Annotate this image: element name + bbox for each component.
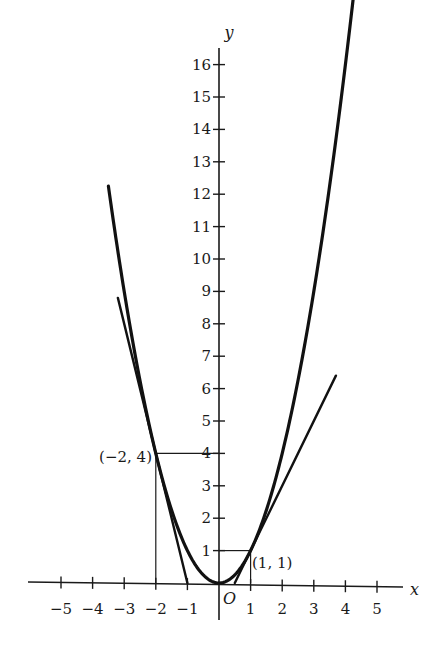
curves xyxy=(108,0,354,583)
x-axis-label: x xyxy=(410,580,419,599)
y-tick-label: 11 xyxy=(192,218,211,236)
x-tick-label: −2 xyxy=(145,600,167,618)
y-tick-label: 3 xyxy=(201,477,211,495)
origin-label: O xyxy=(223,589,236,608)
parabola-curve xyxy=(108,0,354,583)
tangent-line-left xyxy=(118,298,188,583)
point-label-1-1: (1, 1) xyxy=(252,554,292,572)
y-axis-label: y xyxy=(223,23,234,42)
x-tick-label: −1 xyxy=(176,600,198,618)
x-tick-label: −5 xyxy=(50,600,72,618)
y-tick-label: 10 xyxy=(192,250,211,268)
y-tick-label: 14 xyxy=(192,120,211,138)
x-tick-label: 3 xyxy=(309,600,319,618)
y-tick-label: 8 xyxy=(201,315,211,333)
parabola-tangent-chart: −5−4−3−2−11234512345678910111213141516yx… xyxy=(0,0,445,646)
x-tick-label: −4 xyxy=(82,600,104,618)
y-tick-label: 12 xyxy=(192,185,211,203)
point-label-neg2-4: (−2, 4) xyxy=(99,448,152,466)
y-tick-label: 16 xyxy=(192,56,211,74)
x-tick-label: −3 xyxy=(113,600,135,618)
y-tick-label: 9 xyxy=(201,282,211,300)
x-tick-label: 1 xyxy=(246,600,256,618)
x-tick-label: 5 xyxy=(372,600,382,618)
y-tick-label: 1 xyxy=(201,542,211,560)
y-tick-label: 2 xyxy=(201,509,211,527)
tangent-line-right xyxy=(235,376,336,583)
x-tick-label: 4 xyxy=(341,600,351,618)
y-tick-label: 15 xyxy=(192,88,211,106)
y-tick-label: 7 xyxy=(201,347,211,365)
y-tick-label: 4 xyxy=(201,444,211,462)
axes xyxy=(28,48,403,620)
x-tick-label: 2 xyxy=(277,600,287,618)
y-tick-label: 13 xyxy=(192,153,211,171)
labels: −5−4−3−2−11234512345678910111213141516yx… xyxy=(50,23,419,618)
y-tick-label: 6 xyxy=(201,380,211,398)
y-tick-label: 5 xyxy=(201,412,211,430)
